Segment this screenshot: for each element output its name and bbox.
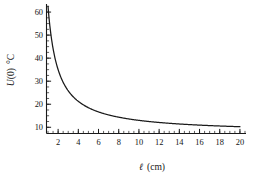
y-tick-label: 20 (35, 100, 43, 109)
x-axis-title-text: ℓ(cm) (139, 161, 165, 173)
chart-canvas: 2468101214161820 102030405060 ℓ(cm) U(0)… (0, 0, 255, 184)
y-axis-units: °C (5, 54, 16, 64)
x-tick-label: 18 (216, 138, 224, 147)
x-tick-label: 4 (76, 138, 81, 147)
y-tick-label: 30 (35, 77, 43, 86)
x-axis-title: ℓ(cm) (139, 161, 165, 173)
y-tick-label: 60 (35, 8, 43, 17)
x-tick-label: 20 (236, 138, 244, 147)
x-axis-symbol: ℓ (139, 161, 143, 172)
data-curve-u0 (48, 6, 240, 126)
y-axis-arg: (0) (5, 68, 17, 79)
x-tick-label: 14 (175, 138, 184, 147)
x-tick-label: 12 (155, 138, 163, 147)
x-tick-label: 6 (96, 138, 100, 147)
y-tick-label: 50 (35, 31, 43, 40)
y-axis-tick-labels: 102030405060 (35, 8, 43, 132)
x-axis-tick-labels: 2468101214161820 (56, 138, 244, 147)
y-axis-title-text: U(0)°C (5, 54, 17, 86)
x-tick-label: 16 (195, 138, 203, 147)
y-axis-title: U(0)°C (5, 54, 17, 86)
axes (47, 4, 247, 134)
x-tick-label: 8 (117, 138, 121, 147)
y-tick-label: 10 (35, 123, 43, 132)
x-tick-label: 10 (135, 138, 143, 147)
chart-figure: 2468101214161820 102030405060 ℓ(cm) U(0)… (0, 0, 255, 184)
x-tick-label: 2 (56, 138, 60, 147)
y-tick-label: 40 (35, 54, 43, 63)
x-axis-units: (cm) (147, 161, 165, 173)
